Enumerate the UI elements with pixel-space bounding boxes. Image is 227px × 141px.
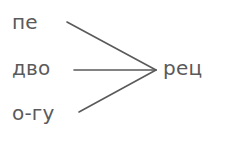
- left-word-pe[interactable]: пе: [12, 12, 38, 32]
- connection-line-pe-rets: [67, 22, 156, 70]
- right-word-rets[interactable]: рец: [163, 58, 202, 78]
- left-word-dvo[interactable]: дво: [12, 58, 50, 78]
- diagram-canvas: пе дво о-гу рец: [0, 0, 227, 141]
- left-word-o-gu[interactable]: о-гу: [12, 103, 55, 123]
- connection-line-o-gu-rets: [79, 70, 156, 112]
